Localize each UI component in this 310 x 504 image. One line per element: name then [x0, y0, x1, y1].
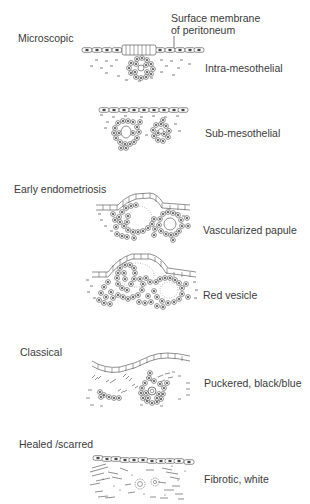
puckered-lesion-icon [86, 353, 190, 406]
sub-mesothelial-lesion-icon [99, 108, 188, 151]
red-vesicle-lesion-icon [86, 254, 198, 309]
lesion-drawings [0, 0, 310, 504]
fibrotic-lesion-icon [90, 456, 194, 499]
vascularized-papule-lesion-icon [96, 193, 190, 242]
intra-mesothelial-lesion-icon [82, 45, 204, 81]
